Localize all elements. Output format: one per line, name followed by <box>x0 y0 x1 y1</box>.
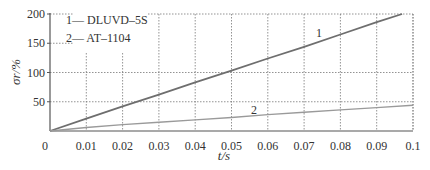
x-tick-label: 0.06 <box>257 139 278 153</box>
legend: 1— DLUVD–5S 2— AT–1104 <box>66 13 148 45</box>
x-tick-label: 0.01 <box>76 139 97 153</box>
x-tick-label: 0.1 <box>406 139 421 153</box>
legend-item-2: 2— AT–1104 <box>66 31 131 45</box>
legend-item-1: 1— DLUVD–5S <box>66 13 148 27</box>
y-tick-label: 50 <box>33 95 45 109</box>
x-tick-label: 0.04 <box>185 139 206 153</box>
y-tick-label: 200 <box>27 7 45 21</box>
x-tick-label: 0.08 <box>330 139 351 153</box>
x-tick-labels: 00.010.020.030.040.050.060.070.080.090.1 <box>42 139 421 153</box>
y-axis-label: σr/% <box>8 59 23 85</box>
x-tick-label: 0.02 <box>112 139 133 153</box>
x-tick-label: 0.09 <box>366 139 387 153</box>
series-label-1: 1 <box>316 26 322 40</box>
x-tick-label: 0.03 <box>148 139 169 153</box>
line-chart: 00.010.020.030.040.050.060.070.080.090.1… <box>0 0 430 170</box>
x-tick-label: 0.07 <box>294 139 315 153</box>
x-axis-label: t/s <box>218 148 230 163</box>
series-line-2 <box>50 105 413 131</box>
y-tick-label: 150 <box>27 36 45 50</box>
series-label-2: 2 <box>251 103 257 117</box>
y-tick-labels: 50100150200 <box>27 7 45 109</box>
y-tick-label: 100 <box>27 66 45 80</box>
x-tick-label: 0 <box>42 139 48 153</box>
